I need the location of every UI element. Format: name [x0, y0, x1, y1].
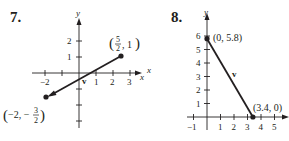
x-tick-label: 1	[218, 122, 223, 132]
y-tick-label: 1	[67, 52, 72, 62]
tail-point	[118, 53, 123, 58]
y-axis-label: y	[203, 7, 208, 17]
svg-text:, 1: , 1	[122, 39, 132, 50]
figure-7: 7. x y −2 1 2 3 2 1	[0, 0, 145, 141]
x-tick-label: −1	[187, 122, 197, 132]
head-point	[250, 114, 255, 119]
y-tick-label: 2	[67, 36, 72, 46]
x-tick-label: 4	[259, 122, 264, 132]
x-tick-label: 2	[232, 122, 237, 132]
x-axis-arrow-icon	[282, 115, 289, 120]
tail-point	[204, 36, 209, 41]
svg-text:): )	[40, 107, 45, 124]
svg-text:): )	[135, 35, 140, 52]
y-tick-label: 4	[196, 58, 201, 68]
x-tick-label: 5	[272, 122, 277, 132]
y-tick-label: 1	[196, 99, 201, 109]
vector-plot-7: x y −2 1 2 3 2 1 v	[0, 0, 145, 141]
svg-text:(: (	[109, 35, 114, 52]
vector-label: v	[232, 69, 237, 79]
x-tick-label: −2	[40, 77, 50, 87]
vector-plot-8: x y −1 1 2 3 4 5 6 5 4 3	[145, 0, 289, 141]
x-tick-label: 3	[127, 77, 132, 87]
y-tick-label: 6	[196, 31, 201, 41]
svg-text:2: 2	[116, 44, 120, 53]
figure-8: 8. x y −1 1 2 3 4 5	[145, 0, 289, 141]
svg-text:3: 3	[34, 106, 38, 115]
y-axis-arrow-icon	[77, 18, 82, 25]
x-tick-label: 3	[245, 122, 250, 132]
tail-point-label: ( 5 2 , 1 )	[109, 35, 140, 53]
svg-text:5: 5	[116, 35, 120, 44]
x-axis-label: x	[139, 72, 144, 82]
head-point	[43, 94, 48, 99]
y-tick-label: 5	[196, 45, 201, 55]
x-tick-label: 2	[110, 77, 115, 87]
x-axis-label: x	[146, 65, 151, 75]
y-tick-label: 3	[196, 72, 201, 82]
tail-point-label: (0, 5.8)	[213, 32, 242, 44]
y-tick-label: 2	[196, 85, 201, 95]
svg-text:2: 2	[34, 116, 38, 125]
head-point-label: ( −2, − 3 2 )	[3, 106, 45, 125]
x-tick-label: 1	[94, 77, 99, 87]
vector-arrowhead-icon	[47, 91, 57, 98]
vector-v	[207, 39, 253, 117]
head-point-label: (3.4, 0)	[253, 102, 282, 114]
y-axis-label: y	[75, 8, 80, 18]
vector-label: v	[82, 76, 87, 86]
svg-text:−2, −: −2, −	[8, 109, 30, 120]
